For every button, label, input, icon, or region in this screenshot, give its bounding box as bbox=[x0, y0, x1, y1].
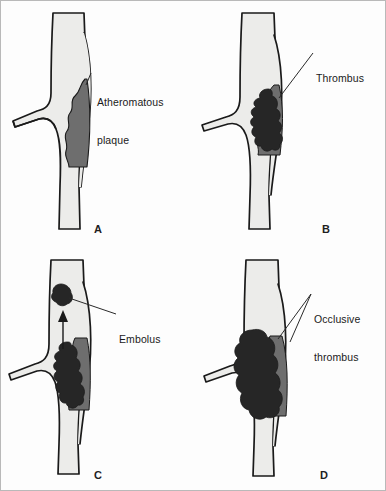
panel-b-illustration bbox=[194, 1, 386, 246]
panel-letter-a: A bbox=[94, 223, 102, 235]
label-line-2: plaque bbox=[97, 134, 164, 147]
panel-b: Thrombus B bbox=[194, 1, 386, 246]
panel-d: Occlusive thrombus D bbox=[194, 246, 386, 491]
label-embolus: Embolus bbox=[119, 308, 161, 371]
label-line-1: Occlusive bbox=[314, 313, 360, 326]
label-line-1: Thrombus bbox=[316, 72, 364, 85]
label-line-1: Atheromatous bbox=[97, 96, 164, 109]
panel-letter-d: D bbox=[320, 469, 328, 481]
panel-letter-c: C bbox=[94, 469, 102, 481]
leader-line-b bbox=[279, 53, 313, 98]
panel-c-illustration bbox=[1, 246, 194, 491]
panel-a: Atheromatous plaque A bbox=[1, 1, 194, 246]
label-line-2: thrombus bbox=[314, 351, 360, 364]
figure-container: Atheromatous plaque A Thrombus B bbox=[0, 0, 386, 491]
panel-c: Embolus C bbox=[1, 246, 194, 491]
panel-letter-b: B bbox=[322, 223, 330, 235]
label-thrombus: Thrombus bbox=[316, 47, 364, 110]
label-atheromatous-plaque: Atheromatous plaque bbox=[97, 71, 164, 171]
label-line-1: Embolus bbox=[119, 333, 161, 346]
label-occlusive-thrombus: Occlusive thrombus bbox=[314, 288, 360, 388]
